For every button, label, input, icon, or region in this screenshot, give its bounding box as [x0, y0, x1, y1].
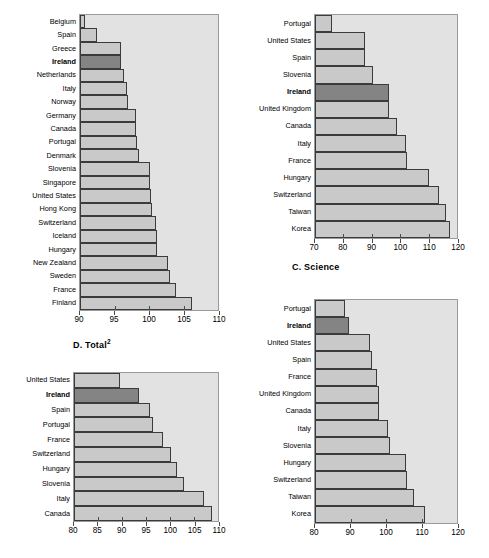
bar-row: Denmark — [80, 149, 218, 162]
bar-row: Portugal — [315, 300, 457, 317]
category-label: Portugal — [284, 305, 311, 312]
bar-row: Sweden — [80, 270, 218, 283]
x-tick-label: 100 — [163, 526, 177, 535]
bar — [74, 462, 177, 477]
bar-row: Germany — [80, 109, 218, 122]
category-label: Hungary — [283, 174, 311, 181]
category-label: Italy — [57, 495, 70, 502]
category-label: Portugal — [49, 139, 76, 146]
x-tick-label: 90 — [367, 243, 376, 252]
bar — [315, 101, 389, 118]
x-tick-inner — [184, 306, 185, 310]
bar-row: Ireland — [315, 317, 457, 334]
bar — [80, 122, 136, 135]
category-label: Switzerland — [273, 191, 311, 198]
bar — [80, 69, 124, 82]
x-tick-inner — [122, 517, 123, 521]
bar-row: Korea — [315, 221, 457, 238]
bar-row: Canada — [315, 403, 457, 420]
bar — [80, 270, 170, 283]
bar-row: Switzerland — [315, 186, 457, 203]
bar-row: Switzerland — [80, 216, 218, 229]
x-tick-label: 80 — [309, 528, 318, 537]
x-axis-top-right: 708090100110120 — [314, 239, 458, 257]
category-label: Canada — [285, 123, 311, 130]
bar-row: Portugal — [74, 417, 218, 432]
bar-row: Netherlands — [80, 69, 218, 82]
category-label: Ireland — [52, 58, 76, 65]
bar — [80, 28, 97, 41]
bar-row: United States — [80, 189, 218, 202]
x-tick-label: 105 — [188, 526, 202, 535]
bar-row: Taiwan — [315, 204, 457, 221]
bar — [315, 489, 414, 506]
bar — [80, 109, 136, 122]
x-tick-inner — [351, 519, 352, 523]
category-label: France — [53, 286, 76, 293]
bar-row: Portugal — [315, 15, 457, 32]
bar-row: Italy — [74, 491, 218, 506]
bar — [315, 454, 406, 471]
bar-row: Ireland — [315, 84, 457, 101]
category-label: Slovenia — [283, 71, 311, 78]
bar — [315, 15, 332, 32]
bar-row: France — [315, 369, 457, 386]
panel-top-right: PortugalUnited StatesSpainSloveniaIrelan… — [245, 0, 489, 285]
x-tick-inner — [98, 517, 99, 521]
x-tick-label: 80 — [68, 526, 77, 535]
category-label: Ireland — [287, 88, 311, 95]
bar — [80, 95, 128, 108]
category-label: Netherlands — [37, 72, 76, 79]
x-tick-label: 120 — [451, 243, 465, 252]
category-label: Canada — [285, 408, 311, 415]
category-label: Canada — [50, 125, 76, 132]
bar — [80, 243, 157, 256]
panel-caption-top-right: C. Science — [292, 262, 340, 272]
bar — [80, 162, 150, 175]
bar — [315, 420, 388, 437]
bar-row: Slovenia — [74, 477, 218, 492]
category-label: Switzerland — [32, 451, 70, 458]
bar — [315, 169, 429, 186]
bar — [315, 437, 390, 454]
category-label: Hungary — [42, 466, 70, 473]
bar-row: Slovenia — [315, 66, 457, 83]
x-tick-label: 110 — [212, 315, 225, 324]
bar-row: Hungary — [80, 243, 218, 256]
category-label: Taiwan — [288, 208, 311, 215]
category-label: Slovenia — [48, 166, 76, 173]
bar-row: United States — [315, 32, 457, 49]
bar — [315, 221, 450, 238]
plot-area-top-right: PortugalUnited StatesSpainSloveniaIrelan… — [314, 14, 458, 239]
bar-row: Hungary — [315, 454, 457, 471]
category-label: United Kingdom — [259, 106, 311, 113]
category-label: Portugal — [284, 20, 311, 27]
bar-row: New Zealand — [80, 256, 218, 269]
x-tick-inner — [372, 234, 373, 238]
category-label: Singapore — [43, 179, 76, 186]
bar — [80, 82, 127, 95]
x-axis-bottom-left: 80859095100105110 — [73, 522, 219, 540]
x-tick-label: 110 — [212, 526, 225, 535]
bar — [315, 351, 372, 368]
bar-row: Italy — [315, 420, 457, 437]
bar — [315, 49, 365, 66]
panel-top-left: BelgiumSpainGreeceIrelandNetherlandsItal… — [0, 0, 245, 332]
x-tick-label: 120 — [451, 528, 465, 537]
category-label: Sweden — [50, 273, 76, 280]
bar-row: Ireland — [74, 388, 218, 403]
x-tick-label: 100 — [379, 528, 393, 537]
bar-row: France — [80, 283, 218, 296]
x-tick-label: 95 — [109, 315, 118, 324]
x-axis-top-left: 9095100105110 — [79, 311, 219, 329]
bar — [80, 297, 192, 310]
bar — [315, 334, 370, 351]
x-tick-inner — [194, 517, 195, 521]
category-label: Spain — [292, 356, 311, 363]
bar-row: Hungary — [74, 462, 218, 477]
category-label: Canada — [44, 510, 70, 517]
bar-row: Greece — [80, 42, 218, 55]
bar — [315, 204, 446, 221]
bar — [315, 135, 406, 152]
x-axis-bottom-right: 8090100110120 — [314, 524, 458, 542]
